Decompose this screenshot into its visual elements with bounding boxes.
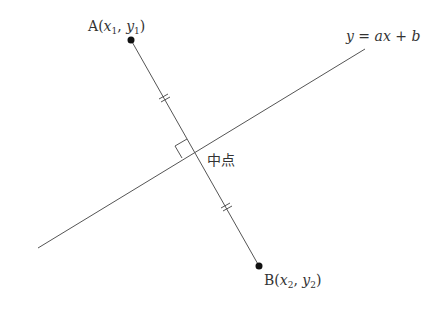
point-b-label: B(x2, y2) (264, 272, 321, 290)
equal-tick-mark-lower (221, 203, 232, 211)
segment-ab (131, 40, 259, 266)
right-angle-marker (175, 139, 187, 158)
line-y-ax-b (38, 49, 365, 248)
point-b-dot (256, 263, 263, 270)
point-a-dot (128, 37, 135, 44)
perpendicular-bisector-diagram: A(x1, y1) B(x2, y2) y = ax + b 中点 (0, 0, 447, 312)
line-equation-label: y = ax + b (345, 28, 420, 44)
point-a-label: A(x1, y1) (87, 18, 145, 36)
equal-tick-mark-upper (159, 94, 170, 102)
midpoint-label: 中点 (207, 152, 235, 168)
